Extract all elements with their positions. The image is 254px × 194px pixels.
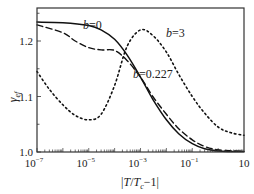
series-solid-line bbox=[37, 22, 244, 151]
y-tick-label: 1.2 bbox=[19, 35, 33, 47]
series-dashed-line bbox=[37, 25, 244, 151]
plot-series bbox=[37, 22, 244, 151]
x-tick-label: 10−5 bbox=[77, 156, 96, 169]
x-tick-label: 10 bbox=[239, 157, 251, 169]
x-tick-label: 10−1 bbox=[180, 156, 199, 169]
x-tick-label: 10−7 bbox=[25, 156, 44, 169]
chart: 1.0 1.1 1.2 10−710−510−310−110 γef |T/Tc… bbox=[0, 0, 254, 194]
series-dotted-line bbox=[37, 29, 244, 135]
annotation-b3: b=3 bbox=[166, 26, 185, 40]
y-axis-label: γef bbox=[6, 90, 22, 102]
annotation-b0227: b=0.227 bbox=[133, 67, 173, 81]
x-axis-label: |T/Tc−1| bbox=[121, 175, 159, 191]
x-tick-labels: 10−710−510−310−110 bbox=[25, 156, 250, 169]
x-tick-label: 10−3 bbox=[128, 156, 147, 169]
annotation-b0: b=0 bbox=[83, 18, 102, 32]
